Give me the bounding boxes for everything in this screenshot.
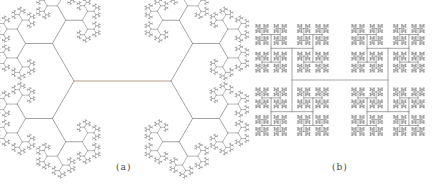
figure-b-h-tree	[256, 25, 425, 136]
fractal-figures	[0, 0, 442, 185]
caption-a: (a)	[116, 162, 131, 172]
figure-a-fractal-tree	[0, 0, 249, 178]
caption-b: (b)	[332, 162, 348, 172]
